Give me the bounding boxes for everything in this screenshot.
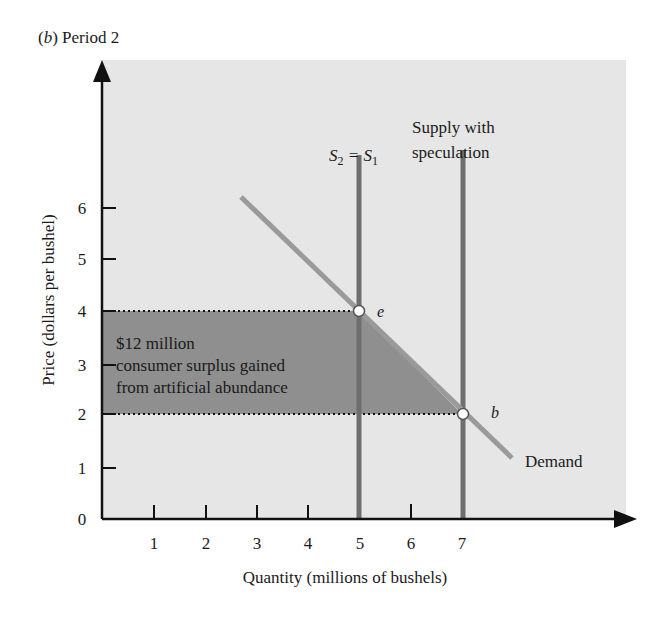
x-tick-7: 7: [458, 534, 467, 553]
plot-background: [102, 60, 626, 519]
supply-speculation-label-line2: speculation: [412, 143, 490, 162]
x-axis-title: Quantity (millions of bushels): [243, 568, 447, 587]
surplus-label-line1: $12 million: [116, 334, 195, 353]
supply-s2-label: S2 = S1: [329, 146, 378, 168]
s1-equals: = S: [344, 146, 373, 165]
y-tick-3: 3: [78, 356, 87, 375]
surplus-label-line3: from artificial abundance: [116, 378, 288, 397]
point-b-marker: [458, 409, 469, 420]
x-tick-3: 3: [253, 534, 262, 553]
y-tick-4: 4: [78, 302, 87, 321]
x-tick-2: 2: [202, 534, 211, 553]
supply-speculation-label-line1: Supply with: [412, 118, 495, 137]
y-tick-1: 1: [78, 459, 87, 478]
chart-canvas: 0 1 2 3 4 5 6 1 2 3 4 5 6 7 Quantity (mi…: [0, 0, 655, 617]
y-tick-0: 0: [78, 510, 87, 529]
x-tick-5: 5: [356, 534, 365, 553]
y-tick-labels: 0 1 2 3 4 5 6: [78, 199, 87, 529]
demand-label: Demand: [525, 452, 583, 471]
x-tick-6: 6: [407, 534, 416, 553]
x-tick-1: 1: [150, 534, 159, 553]
point-b-label: b: [491, 404, 499, 421]
x-tick-labels: 1 2 3 4 5 6 7: [150, 534, 467, 553]
x-tick-4: 4: [304, 534, 313, 553]
point-e-marker: [354, 306, 365, 317]
y-tick-6: 6: [78, 199, 87, 218]
surplus-label-line2: consumer surplus gained: [116, 356, 286, 375]
point-e-label: e: [377, 303, 384, 320]
y-axis-title: Price (dollars per bushel): [39, 214, 58, 385]
y-tick-2: 2: [78, 405, 87, 424]
y-tick-5: 5: [78, 250, 87, 269]
s1-subscript: 1: [372, 154, 378, 168]
